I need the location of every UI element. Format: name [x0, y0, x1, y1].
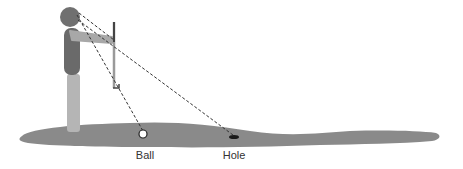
- golfer-head: [60, 7, 80, 27]
- golf-ball: [139, 130, 147, 138]
- hole-label: Hole: [223, 149, 246, 161]
- diagram-canvas: [0, 0, 463, 169]
- golf-hole: [229, 135, 239, 139]
- golfer-arm: [70, 31, 112, 43]
- sightline-to-ball: [77, 15, 143, 131]
- ball-label: Ball: [136, 149, 154, 161]
- putting-green: [20, 122, 440, 147]
- golf-putt-diagram: Ball Hole: [0, 0, 463, 169]
- golfer-legs: [67, 74, 80, 132]
